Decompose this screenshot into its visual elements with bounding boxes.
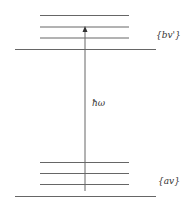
transition-energy-label: ħω (92, 98, 105, 108)
upper-manifold-label: {bv'} (156, 30, 181, 40)
lower-manifold-label: {av} (158, 176, 180, 186)
